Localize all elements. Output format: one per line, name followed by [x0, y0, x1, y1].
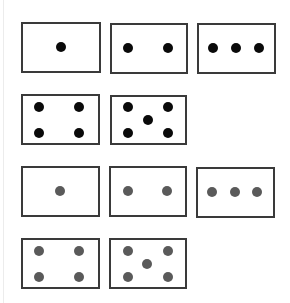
dot-icon — [162, 186, 172, 196]
dot-card-grey-1 — [21, 166, 100, 217]
dot-icon — [207, 187, 217, 197]
dot-icon — [163, 272, 173, 282]
dot-card-grey-4 — [21, 238, 100, 289]
dot-icon — [123, 128, 133, 138]
dot-card-grey-2 — [109, 166, 187, 217]
dot-icon — [143, 115, 153, 125]
dot-card-grey-3 — [196, 167, 275, 218]
dot-icon — [123, 102, 133, 112]
dot-icon — [123, 272, 133, 282]
dot-icon — [123, 246, 133, 256]
dot-icon — [56, 42, 66, 52]
left-edge-line — [3, 0, 4, 303]
dot-icon — [34, 272, 44, 282]
dot-icon — [74, 272, 84, 282]
dot-icon — [74, 128, 84, 138]
dot-card-grey-5 — [109, 238, 187, 289]
dot-card-black-3 — [197, 23, 276, 74]
dot-icon — [252, 187, 262, 197]
dot-icon — [163, 246, 173, 256]
dot-icon — [163, 102, 173, 112]
dot-icon — [123, 186, 133, 196]
dot-icon — [163, 128, 173, 138]
dot-icon — [74, 246, 84, 256]
dot-card-black-2 — [110, 23, 188, 74]
dot-icon — [34, 128, 44, 138]
dot-icon — [163, 43, 173, 53]
dot-card-black-5 — [110, 95, 187, 145]
dot-icon — [142, 259, 152, 269]
dot-icon — [34, 246, 44, 256]
dot-icon — [55, 186, 65, 196]
dot-card-black-4 — [21, 94, 100, 145]
dot-icon — [123, 43, 133, 53]
dot-icon — [254, 43, 264, 53]
dot-icon — [74, 102, 84, 112]
dot-card-black-1 — [21, 22, 101, 73]
dot-icon — [231, 43, 241, 53]
dot-icon — [208, 43, 218, 53]
dot-icon — [230, 187, 240, 197]
dot-icon — [34, 102, 44, 112]
